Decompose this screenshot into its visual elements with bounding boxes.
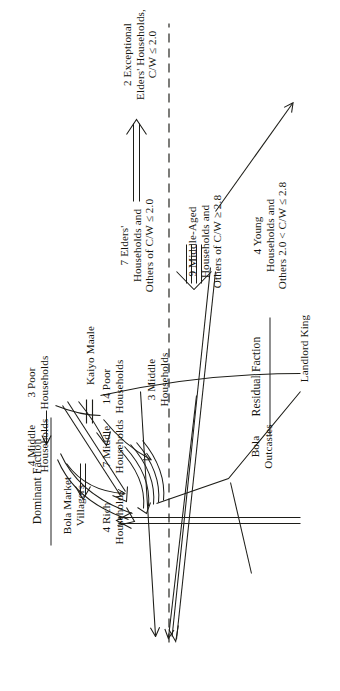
- category-label-landlord-king: Landlord King: [297, 293, 310, 403]
- category-label-bola-market-villagers: Bola Market Villagers: [60, 445, 85, 565]
- diagram-figure: Dominant Faction Residual Faction Bola O…: [0, 0, 340, 691]
- node-label-3-poor-households: 3 Poor Households: [24, 332, 49, 432]
- edge-elders-to-king-b: [172, 267, 210, 636]
- node-label-2-exceptional-elders-households: 2 Exceptional Elders' Households, C/W ≤ …: [120, 0, 158, 125]
- edge-poor3-to-poor14: [55, 405, 100, 415]
- dominant-faction-rule: [50, 417, 51, 545]
- edge-middle3-to-rich: [156, 391, 300, 503]
- node-label-9-middle-aged-households: 9 Middle-Aged Households and Others of C…: [185, 174, 223, 308]
- category-label-bola-outcastes: Bola Outcastes: [248, 391, 273, 501]
- diagram-connectors: [0, 0, 340, 691]
- node-label-7-elders-households: 7 Elders' Households and Others of C/W ≤…: [117, 183, 155, 307]
- node-label-4-young-households: 4 Young Households and Others 2.0 < C/W …: [250, 155, 288, 315]
- node-label-3-middle-households: 3 Middle Households: [144, 327, 169, 431]
- node-label-14-poor-households: 14 Poor Households: [99, 336, 124, 436]
- edge-residual-to-king: [168, 395, 196, 637]
- diagram-stage: Dominant Faction Residual Faction Bola O…: [0, 0, 340, 691]
- edge-elders-to-king-a: [176, 271, 215, 639]
- edge-bundle-3: [130, 444, 153, 504]
- category-label-kaiyo-maale: Kaiyo Maale: [83, 307, 96, 403]
